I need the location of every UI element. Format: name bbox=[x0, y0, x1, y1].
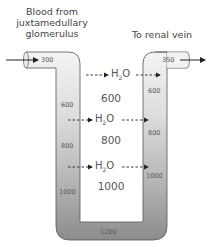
water-label-2: H2O bbox=[95, 113, 114, 126]
water-label-3: H2O bbox=[95, 160, 114, 173]
outflow-label: To renal vein bbox=[122, 29, 202, 40]
vasa-recta-tube bbox=[26, 52, 167, 240]
inflow-label-line-1: Blood from bbox=[12, 6, 92, 17]
desc-conc-800: 800 bbox=[61, 142, 73, 150]
desc-conc-300: 300 bbox=[41, 56, 53, 64]
bottom-conc-1200: 1200 bbox=[100, 228, 117, 236]
inflow-label-line-2: juxtamedullary bbox=[12, 17, 92, 28]
inflow-label: Blood from juxtamedullary glomerulus bbox=[12, 6, 92, 39]
asc-conc-600: 600 bbox=[148, 87, 160, 95]
asc-conc-1000: 1000 bbox=[146, 172, 163, 180]
inflow-label-line-3: glomerulus bbox=[12, 28, 92, 39]
asc-conc-800: 800 bbox=[148, 129, 160, 137]
interstitium-conc-800: 800 bbox=[86, 134, 136, 146]
desc-conc-1000: 1000 bbox=[59, 188, 76, 196]
interstitium-conc-1000: 1000 bbox=[86, 180, 136, 192]
asc-conc-350: 350 bbox=[162, 56, 174, 64]
vasa-recta-countercurrent-diagram: Blood from juxtamedullary glomerulus To … bbox=[0, 0, 210, 247]
water-label-1: H2O bbox=[111, 68, 130, 81]
desc-conc-600: 600 bbox=[61, 101, 73, 109]
interstitium-conc-600: 600 bbox=[86, 92, 136, 104]
